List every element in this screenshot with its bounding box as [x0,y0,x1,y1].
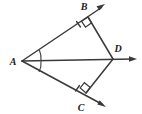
geometry-figure: A B C D [0,0,142,114]
angle-arc-BAD-icon [40,51,42,61]
geometry-diagram-svg: A B C D [0,0,142,114]
ray-AD [22,56,137,62]
right-angle-at-C-icon [80,83,90,93]
angle-arc-DAC-icon [39,62,41,72]
ray-AD-line [22,59,133,61]
vertex-label-d: D [113,43,121,54]
ray-AC-line [22,61,103,105]
ray-AB [22,4,105,61]
right-angle-at-B-icon [82,17,92,27]
vertex-label-c: C [78,102,85,113]
ray-AD-arrowhead [129,56,137,62]
vertex-label-a: A [9,56,17,67]
ray-AB-line [22,8,102,62]
vertex-label-b: B [80,1,88,12]
ray-AC-arrowhead [97,100,106,107]
